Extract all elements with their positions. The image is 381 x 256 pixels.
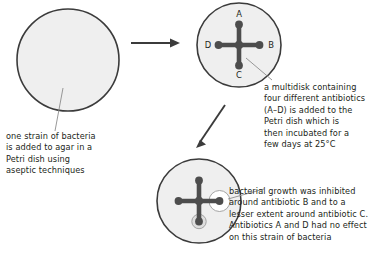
caption-one-strain-of-bacteria: one strain of bacteria is added to agar …: [6, 131, 128, 177]
multidisk-disk-d: [215, 41, 223, 49]
multidisk-label-c: C: [233, 70, 245, 80]
caption-multidisk-added: a multidisk containing four different an…: [264, 82, 380, 150]
multidisk-disk-b-stage3: [216, 197, 224, 205]
multidisk-disk-a-stage3: [195, 177, 203, 185]
arrow-stage2-to-stage3: [196, 105, 225, 148]
multidisk-label-d: D: [202, 40, 214, 50]
multidisk-disk-b: [256, 41, 264, 49]
multidisk-disk-c-stage3: [195, 218, 203, 226]
multidisk-disk-d-stage3: [175, 197, 183, 205]
multidisk-disk-a: [235, 21, 243, 29]
caption-inhibition-results: bacterial growth was inhibited around an…: [229, 186, 379, 243]
arrow-stage1-to-stage2: [131, 39, 180, 48]
petri-dish-stage-1: [17, 9, 119, 111]
multidisk-hub: [235, 41, 244, 50]
diagram-canvas: A B C D one strain of bacteria is added …: [0, 0, 381, 256]
multidisk-label-b: B: [265, 40, 277, 50]
multidisk-disk-c: [235, 62, 243, 70]
multidisk-label-a: A: [233, 9, 245, 19]
multidisk-hub-stage3: [195, 197, 204, 206]
